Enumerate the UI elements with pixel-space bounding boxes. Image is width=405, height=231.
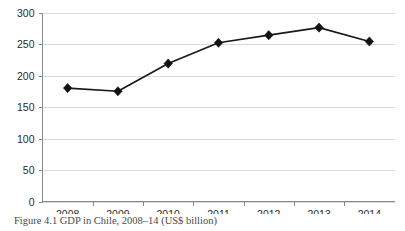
x-tick-label: 2014 xyxy=(358,208,382,215)
y-tick-label: 50 xyxy=(23,164,35,176)
y-tick-label: 200 xyxy=(17,70,35,82)
x-tick-label: 2011 xyxy=(207,208,230,215)
x-tick-label: 2012 xyxy=(257,208,281,215)
x-tick-label: 2010 xyxy=(157,208,181,215)
data-series-gdp xyxy=(63,23,373,96)
figure-container: 050100150200250300 200820092010201120122… xyxy=(0,0,405,231)
data-point-marker xyxy=(114,87,122,96)
y-tick-label: 0 xyxy=(29,196,35,208)
data-point-marker xyxy=(164,59,172,68)
y-tick-marks xyxy=(39,14,43,203)
x-tick-label: 2009 xyxy=(106,208,130,215)
x-tick-labels: 2008200920102011201220132014 xyxy=(56,208,381,215)
data-point-marker xyxy=(214,38,222,47)
y-tick-labels: 050100150200250300 xyxy=(17,7,35,208)
data-point-marker xyxy=(265,31,273,40)
y-tick-label: 250 xyxy=(17,38,35,50)
x-tick-label: 2008 xyxy=(56,208,80,215)
series-markers-gdp xyxy=(63,23,373,96)
data-point-marker xyxy=(315,23,323,32)
gdp-line-chart: 050100150200250300 200820092010201120122… xyxy=(0,0,405,214)
series-line-gdp xyxy=(68,28,370,92)
y-tick-label: 300 xyxy=(17,7,35,19)
figure-caption: Figure 4.1 GDP in Chile, 2008–14 (US$ bi… xyxy=(14,215,394,226)
y-tick-label: 100 xyxy=(17,133,35,145)
data-point-marker xyxy=(63,84,71,93)
x-tick-label: 2013 xyxy=(307,208,331,215)
y-tick-label: 150 xyxy=(17,101,35,113)
